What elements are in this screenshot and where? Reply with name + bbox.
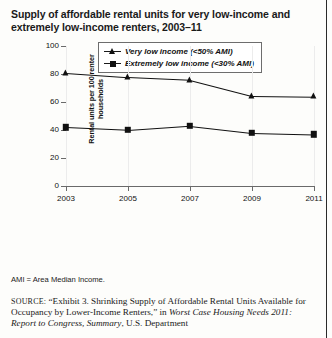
- data-point-marker: [311, 131, 317, 137]
- series-line-segment: [190, 126, 252, 134]
- y-axis-tick-label: 60: [50, 97, 59, 106]
- data-point-marker: [125, 127, 131, 133]
- series-line-segment: [252, 96, 314, 98]
- data-point-marker: [186, 76, 192, 82]
- y-axis-tick-label: 20: [50, 153, 59, 162]
- data-point-marker: [248, 92, 254, 98]
- y-axis-tick-label: 80: [50, 69, 59, 78]
- page-right-rule: [326, 0, 327, 338]
- x-axis-tick: [128, 186, 129, 191]
- series-line-segment: [128, 126, 190, 131]
- y-axis-tick-label: 100: [46, 41, 59, 50]
- data-point-marker: [124, 73, 130, 79]
- y-axis-tick-label: 40: [50, 125, 59, 134]
- x-gridline: [66, 46, 67, 186]
- data-point-marker: [310, 93, 316, 99]
- x-gridline: [314, 46, 315, 186]
- data-point-marker: [187, 123, 193, 129]
- series-line-segment: [128, 77, 190, 81]
- x-axis-tick: [252, 186, 253, 191]
- chart-area: Very low income (<50% AMI) Extremely low…: [10, 40, 322, 245]
- source-note: SOURCE: “Exhibit 3. Shrinking Supply of …: [11, 296, 307, 330]
- data-point-marker: [249, 130, 255, 136]
- series-line-segment: [190, 80, 252, 97]
- plot-region: Rental units per 100 renter households 0…: [66, 40, 314, 216]
- data-point-marker: [63, 124, 69, 130]
- x-gridline: [128, 46, 129, 186]
- x-axis-tick: [66, 186, 67, 191]
- x-gridline: [252, 46, 253, 186]
- x-axis-tick: [314, 186, 315, 191]
- figure-page: Supply of affordable rental units for ve…: [0, 0, 332, 338]
- footnote-ami: AMI = Area Median Income.: [11, 275, 105, 284]
- x-axis-tick-label: 2005: [119, 194, 137, 203]
- x-axis-tick-label: 2009: [243, 194, 261, 203]
- source-label: SOURCE:: [11, 297, 46, 306]
- source-text-2: , U.S. Department: [121, 318, 188, 328]
- x-gridline: [190, 46, 191, 186]
- series-line-segment: [252, 133, 314, 135]
- data-point-marker: [62, 69, 68, 75]
- x-axis-tick-label: 2007: [181, 194, 199, 203]
- y-axis-tick-label: 0: [55, 181, 59, 190]
- x-axis-tick-label: 2011: [305, 194, 322, 203]
- x-axis-tick-label: 2003: [57, 194, 75, 203]
- figure-title: Supply of affordable rental units for ve…: [11, 8, 299, 34]
- x-axis-tick: [190, 186, 191, 191]
- y-axis-label: Rental units per 100 renter households: [87, 39, 105, 159]
